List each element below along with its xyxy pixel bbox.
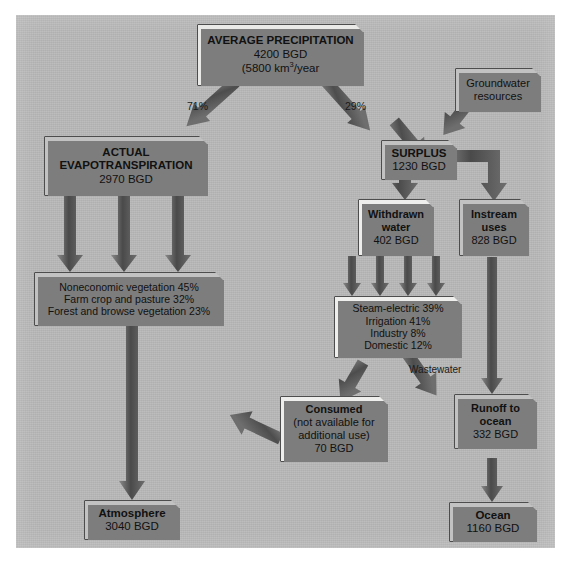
evapo-value: 2970 BGD bbox=[99, 173, 153, 186]
surplus-title: SURPLUS bbox=[392, 147, 447, 160]
precipitation-alt-value: (5800 km3/year bbox=[242, 61, 320, 75]
box-consumed[interactable]: Consumed (not available for additional u… bbox=[280, 396, 388, 462]
ocean-title: Ocean bbox=[475, 509, 510, 522]
surplus-value: 1230 BGD bbox=[392, 160, 446, 173]
label-wastewater: Wastewater bbox=[409, 364, 461, 375]
withdrawn-line-1: Withdrawn bbox=[368, 208, 424, 221]
consumed-value: 70 BGD bbox=[314, 442, 353, 455]
runoff-line-2: ocean bbox=[480, 415, 512, 428]
consumed-title: Consumed bbox=[306, 403, 363, 416]
runoff-line-1: Runoff to bbox=[471, 402, 520, 415]
arrow-vegetation-to-atmosphere bbox=[119, 326, 145, 500]
box-ocean[interactable]: Ocean 1160 BGD bbox=[449, 502, 537, 542]
box-groundwater-resources[interactable]: Groundwater resources bbox=[455, 68, 541, 112]
vegetation-line-2: Farm crop and pasture 32% bbox=[64, 293, 194, 305]
box-surplus[interactable]: SURPLUS 1230 BGD bbox=[381, 140, 457, 180]
instream-value: 828 BGD bbox=[471, 234, 516, 247]
uses-line-2: Irrigation 41% bbox=[366, 315, 431, 327]
label-percent-evapotranspiration: 71% bbox=[187, 100, 208, 112]
arrow-withdrawn-to-uses-4 bbox=[427, 256, 445, 296]
box-actual-evapotranspiration[interactable]: ACTUAL EVAPOTRANSPIRATION 2970 BGD bbox=[44, 136, 208, 196]
arrow-runoff-to-ocean bbox=[481, 458, 503, 502]
arrow-evapo-to-vegetation-1 bbox=[57, 196, 83, 272]
arrow-instream-to-runoff bbox=[481, 257, 503, 394]
box-average-precipitation[interactable]: AVERAGE PRECIPITATION 4200 BGD (5800 km3… bbox=[197, 24, 364, 86]
withdrawn-line-2: water bbox=[382, 221, 411, 234]
arrow-evapo-to-vegetation-2 bbox=[111, 196, 137, 272]
instream-line-1: Instream bbox=[471, 208, 517, 221]
box-vegetation-breakdown[interactable]: Noneconomic vegetation 45% Farm crop and… bbox=[34, 272, 224, 326]
ocean-value: 1160 BGD bbox=[467, 522, 520, 535]
precipitation-title: AVERAGE PRECIPITATION bbox=[207, 34, 353, 47]
precip-alt-post: /year bbox=[294, 62, 320, 74]
precip-alt-pre: (5800 km bbox=[242, 62, 290, 74]
arrow-consumed-to-atmosphere bbox=[224, 403, 286, 450]
instream-line-2: uses bbox=[481, 221, 506, 234]
diagram-canvas: 71% 29% Wastewater AVERAGE PRECIPITATION… bbox=[0, 0, 572, 567]
consumed-line-2: (not available for bbox=[293, 416, 374, 429]
atmosphere-value: 3040 BGD bbox=[105, 520, 159, 533]
uses-line-1: Steam-electric 39% bbox=[352, 302, 443, 314]
arrow-withdrawn-to-uses-3 bbox=[399, 256, 417, 296]
vegetation-line-3: Forest and browse vegetation 23% bbox=[48, 305, 210, 317]
arrow-evapo-to-vegetation-3 bbox=[165, 196, 191, 272]
arrow-withdrawn-to-uses-1 bbox=[343, 256, 361, 296]
groundwater-line-2: resources bbox=[474, 90, 522, 103]
label-percent-surplus: 29% bbox=[345, 100, 366, 112]
evapo-line-2: EVAPOTRANSPIRATION bbox=[59, 159, 192, 172]
evapo-line-1: ACTUAL bbox=[102, 146, 149, 159]
consumed-line-3: additional use) bbox=[298, 429, 370, 442]
precipitation-value: 4200 BGD bbox=[254, 48, 308, 61]
box-instream-uses[interactable]: Instream uses 828 BGD bbox=[459, 199, 529, 256]
box-withdrawn-water[interactable]: Withdrawn water 402 BGD bbox=[358, 199, 434, 256]
atmosphere-title: Atmosphere bbox=[98, 507, 165, 520]
box-runoff-to-ocean[interactable]: Runoff to ocean 332 BGD bbox=[454, 394, 537, 449]
vegetation-line-1: Noneconomic vegetation 45% bbox=[59, 281, 199, 293]
groundwater-line-1: Groundwater bbox=[466, 77, 530, 90]
runoff-value: 332 BGD bbox=[473, 428, 518, 441]
withdrawn-value: 402 BGD bbox=[373, 234, 418, 247]
arrow-withdrawn-to-uses-2 bbox=[371, 256, 389, 296]
box-atmosphere[interactable]: Atmosphere 3040 BGD bbox=[84, 500, 180, 540]
uses-line-4: Domestic 12% bbox=[364, 339, 432, 351]
box-withdrawn-uses-breakdown[interactable]: Steam-electric 39% Irrigation 41% Indust… bbox=[334, 296, 462, 358]
uses-line-3: Industry 8% bbox=[370, 327, 425, 339]
